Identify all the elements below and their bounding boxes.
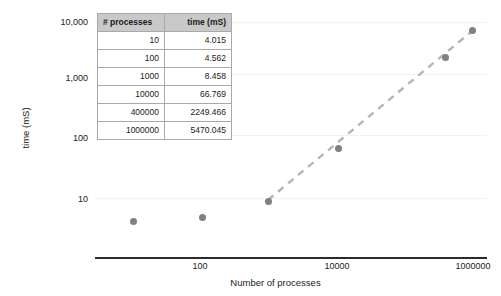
table-cell-time: 5470.045 (165, 122, 232, 140)
x-tick-label-100: 100 (192, 262, 207, 271)
table-cell-processes: 1000 (98, 68, 165, 86)
data-point-1 (130, 218, 137, 225)
table-cell-processes: 100 (98, 50, 165, 68)
table-header-time: time (mS) (165, 14, 232, 32)
data-table-container: # processes time (mS) 10 4.015 100 4.562… (97, 13, 232, 140)
table-row: 1000 8.458 (98, 68, 232, 86)
y-tick-label-10: 10 (78, 195, 88, 204)
table-cell-time: 8.458 (165, 68, 232, 86)
table-cell-time: 4.562 (165, 50, 232, 68)
data-point-2 (199, 214, 206, 221)
x-axis-title: Number of processes (0, 277, 501, 288)
y-axis-title-label: time (mS) (20, 107, 31, 148)
table-cell-time: 2249.466 (165, 104, 232, 122)
data-table: # processes time (mS) 10 4.015 100 4.562… (97, 13, 232, 140)
table-cell-processes: 1000000 (98, 122, 165, 140)
table-header: # processes time (mS) (98, 14, 232, 32)
y-tick-label-1000: 1,000 (65, 74, 88, 83)
table-row: 400000 2249.466 (98, 104, 232, 122)
y-axis-title: time (mS) (20, 100, 31, 156)
data-point-6 (469, 27, 476, 34)
table-row: 100 4.562 (98, 50, 232, 68)
table-row: 1000000 5470.045 (98, 122, 232, 140)
table-header-processes: # processes (98, 14, 165, 32)
y-tick-label-100: 100 (73, 134, 88, 143)
x-axis-line (95, 257, 487, 259)
table-body: 10 4.015 100 4.562 1000 8.458 10000 66.7… (98, 32, 232, 140)
x-axis-title-label: Number of processes (180, 277, 320, 288)
table-cell-processes: 400000 (98, 104, 165, 122)
table-header-row: # processes time (mS) (98, 14, 232, 32)
table-row: 10000 66.769 (98, 86, 232, 104)
y-tick-label-10000: 10,000 (60, 18, 88, 27)
table-cell-processes: 10 (98, 32, 165, 50)
chart-container: time (mS) 10,000 1,000 100 10 100 10000 … (0, 0, 501, 296)
data-point-5 (442, 54, 449, 61)
data-point-3 (265, 198, 272, 205)
table-cell-time: 66.769 (165, 86, 232, 104)
table-row: 10 4.015 (98, 32, 232, 50)
data-point-4 (335, 145, 342, 152)
x-tick-label-1000000: 1000000 (455, 262, 490, 271)
table-cell-time: 4.015 (165, 32, 232, 50)
x-tick-label-10000: 10000 (324, 262, 349, 271)
table-cell-processes: 10000 (98, 86, 165, 104)
